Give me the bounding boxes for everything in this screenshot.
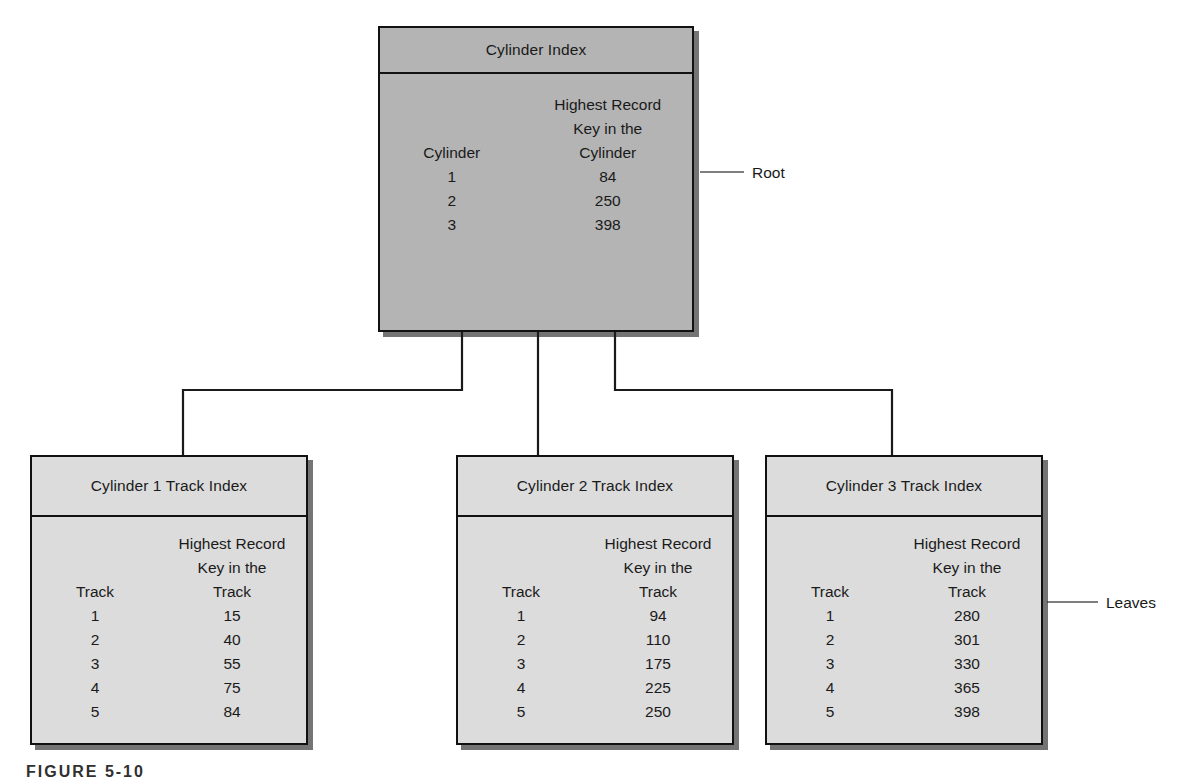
header-blank-1 (458, 527, 584, 551)
table-row: 3 175 (458, 647, 732, 671)
row-value: 398 (893, 695, 1041, 719)
row-key: 2 (32, 623, 158, 647)
row-key: 1 (767, 599, 893, 623)
table-header-row-2: Key in the (458, 551, 732, 575)
left-column-header: Track (458, 575, 584, 599)
header-blank-2 (458, 551, 584, 575)
left-column-header: Track (32, 575, 158, 599)
table-row: 2 301 (767, 623, 1041, 647)
row-key: 4 (32, 671, 158, 695)
left-column-header: Cylinder (380, 136, 524, 160)
row-key: 2 (380, 184, 524, 208)
connector-right (615, 332, 892, 455)
cylinder-1-track-index-title: Cylinder 1 Track Index (32, 457, 306, 517)
row-key: 3 (458, 647, 584, 671)
table-header-row-1: Highest Record (380, 88, 692, 112)
cylinder-index-node: Cylinder Index Highest Record Key in the… (378, 26, 694, 332)
table-row: 4 225 (458, 671, 732, 695)
row-key: 1 (380, 160, 524, 184)
table-row: 5 398 (767, 695, 1041, 719)
right-header-line-1: Highest Record (524, 88, 692, 112)
table-header-row-3: Cylinder Cylinder (380, 136, 692, 160)
table-header-row-1: Highest Record (767, 527, 1041, 551)
table-header-row-3: Track Track (767, 575, 1041, 599)
row-value: 365 (893, 671, 1041, 695)
table-header-row-1: Highest Record (32, 527, 306, 551)
row-key: 3 (380, 208, 524, 232)
table-row: 1 280 (767, 599, 1041, 623)
right-header-line-2: Key in the (584, 551, 732, 575)
row-key: 1 (458, 599, 584, 623)
right-header-line-3: Cylinder (524, 136, 692, 160)
row-value: 94 (584, 599, 732, 623)
row-value: 55 (158, 647, 306, 671)
cylinder-1-track-index-body: Highest Record Key in the Track Track 1 … (32, 517, 306, 743)
row-value: 84 (524, 160, 692, 184)
table-row: 2 40 (32, 623, 306, 647)
row-key: 3 (32, 647, 158, 671)
header-blank-2 (767, 551, 893, 575)
table-header-row-2: Key in the (380, 112, 692, 136)
row-key: 2 (458, 623, 584, 647)
header-blank-1 (32, 527, 158, 551)
row-key: 5 (767, 695, 893, 719)
cylinder-2-track-index-body: Highest Record Key in the Track Track 1 … (458, 517, 732, 743)
cylinder-index-table: Highest Record Key in the Cylinder Cylin… (380, 88, 692, 232)
row-value: 75 (158, 671, 306, 695)
cylinder-2-track-index-node: Cylinder 2 Track Index Highest Record Ke… (456, 455, 734, 745)
row-value: 330 (893, 647, 1041, 671)
table-row: 4 365 (767, 671, 1041, 695)
header-blank-2 (380, 112, 524, 136)
table-row: 4 75 (32, 671, 306, 695)
table-row: 2 110 (458, 623, 732, 647)
table-row: 1 94 (458, 599, 732, 623)
row-key: 4 (767, 671, 893, 695)
cylinder-1-track-index-table: Highest Record Key in the Track Track 1 … (32, 527, 306, 719)
header-blank-1 (767, 527, 893, 551)
connector-left (183, 332, 462, 455)
table-header-row-3: Track Track (458, 575, 732, 599)
row-value: 15 (158, 599, 306, 623)
table-row: 1 84 (380, 160, 692, 184)
cylinder-3-track-index-title: Cylinder 3 Track Index (767, 457, 1041, 517)
row-value: 175 (584, 647, 732, 671)
table-row: 5 250 (458, 695, 732, 719)
right-header-line-2: Key in the (158, 551, 306, 575)
table-row: 2 250 (380, 184, 692, 208)
right-header-line-3: Track (893, 575, 1041, 599)
cylinder-2-track-index-table: Highest Record Key in the Track Track 1 … (458, 527, 732, 719)
right-header-line-3: Track (158, 575, 306, 599)
root-annotation-label: Root (752, 164, 785, 182)
cylinder-3-track-index-node: Cylinder 3 Track Index Highest Record Ke… (765, 455, 1043, 745)
row-value: 225 (584, 671, 732, 695)
row-value: 40 (158, 623, 306, 647)
right-header-line-3: Track (584, 575, 732, 599)
table-header-row-1: Highest Record (458, 527, 732, 551)
row-key: 1 (32, 599, 158, 623)
table-row: 3 330 (767, 647, 1041, 671)
leaves-annotation-label: Leaves (1106, 594, 1156, 612)
row-key: 3 (767, 647, 893, 671)
row-key: 5 (32, 695, 158, 719)
table-row: 3 55 (32, 647, 306, 671)
diagram-canvas: Cylinder Index Highest Record Key in the… (0, 0, 1190, 780)
row-key: 2 (767, 623, 893, 647)
cylinder-3-track-index-table: Highest Record Key in the Track Track 1 … (767, 527, 1041, 719)
row-key: 4 (458, 671, 584, 695)
right-header-line-1: Highest Record (893, 527, 1041, 551)
row-value: 280 (893, 599, 1041, 623)
right-header-line-2: Key in the (524, 112, 692, 136)
table-header-row-2: Key in the (767, 551, 1041, 575)
cylinder-index-body: Highest Record Key in the Cylinder Cylin… (380, 74, 692, 330)
cylinder-2-track-index-title: Cylinder 2 Track Index (458, 457, 732, 517)
row-value: 301 (893, 623, 1041, 647)
figure-caption: FIGURE 5-10 (26, 763, 145, 780)
cylinder-1-track-index-node: Cylinder 1 Track Index Highest Record Ke… (30, 455, 308, 745)
right-header-line-1: Highest Record (584, 527, 732, 551)
row-value: 110 (584, 623, 732, 647)
row-key: 5 (458, 695, 584, 719)
header-blank-1 (380, 88, 524, 112)
right-header-line-2: Key in the (893, 551, 1041, 575)
cylinder-index-title: Cylinder Index (380, 28, 692, 74)
right-header-line-1: Highest Record (158, 527, 306, 551)
